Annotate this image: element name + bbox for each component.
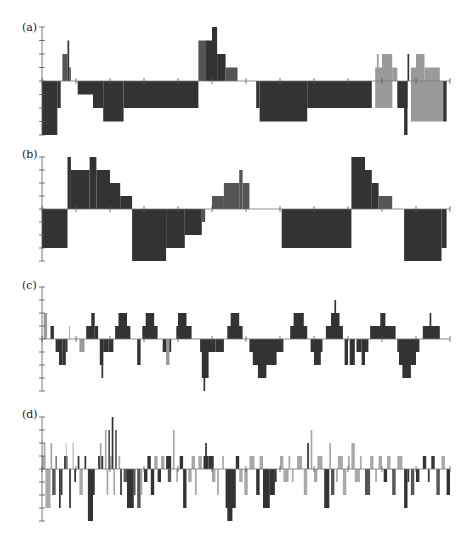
bar-segment [78, 81, 93, 95]
bar-segment [91, 313, 94, 339]
bar-segment [105, 430, 107, 469]
bar-segment [304, 469, 307, 495]
bar-segment [198, 456, 201, 469]
bar-segment [411, 469, 414, 495]
bar-segment [154, 456, 157, 469]
bar-segment [90, 157, 97, 209]
bar-segment [280, 456, 283, 469]
bar-segment [375, 81, 392, 108]
bar-segment [425, 68, 440, 82]
bar-segment [217, 469, 219, 495]
bar-segment [113, 469, 115, 495]
bar-segment [124, 469, 127, 482]
bar-segment [85, 456, 87, 469]
bar-segment [215, 339, 224, 352]
panel-c: (c) [22, 279, 450, 391]
bar-segment [103, 339, 108, 352]
bar-segment [282, 209, 352, 248]
bar-segment [166, 456, 171, 469]
bar-segment [51, 326, 54, 339]
bar-segment [209, 456, 214, 469]
bar-segment [307, 81, 372, 108]
bar-segment [137, 469, 140, 508]
bar-segment [408, 469, 410, 482]
bar-segment [239, 469, 242, 482]
bar-segment [134, 469, 136, 495]
bar-segment [42, 209, 68, 248]
bar-segment [79, 469, 82, 495]
bar-segment [120, 196, 132, 209]
bar-segment [334, 300, 336, 339]
bar-segment [329, 443, 331, 469]
bar-segment [256, 469, 259, 495]
bar-segment [392, 68, 397, 82]
bar-segment [144, 469, 147, 482]
bar-segment [68, 157, 71, 209]
bar-segment [416, 54, 425, 81]
bar-segment [357, 339, 362, 352]
bar-segment [226, 68, 238, 82]
bar-segment [212, 196, 224, 209]
bar-segment [108, 430, 110, 469]
bar-segment [59, 339, 62, 365]
bar-segment [158, 469, 161, 482]
bar-segment [146, 313, 155, 339]
bar-segment [365, 469, 370, 495]
bar-segment [314, 469, 317, 482]
bar-segment [372, 183, 379, 209]
bar-segment [365, 170, 372, 209]
panel-d: (d) [22, 408, 450, 521]
bar-segment [423, 456, 426, 469]
bar-segment [62, 54, 67, 81]
bar-segment [404, 469, 407, 508]
bar-segment [68, 41, 70, 82]
bar-segment [380, 313, 385, 339]
bar-segment [96, 170, 110, 209]
bar-segment [178, 313, 187, 339]
bar-segment [430, 313, 432, 339]
bar-segment [222, 456, 224, 469]
bar-segment [204, 339, 206, 391]
bar-segment [66, 339, 68, 352]
bar-segment [260, 456, 263, 469]
bar-segment [379, 456, 382, 469]
bar-segment [331, 469, 334, 495]
bar-segment [362, 339, 365, 365]
bar-segment [205, 443, 207, 469]
bar-segment [227, 469, 232, 521]
bar-segment [317, 456, 322, 469]
bar-segment [120, 469, 122, 495]
bar-segment [343, 469, 346, 495]
bar-segment [88, 469, 93, 521]
bar-segment [61, 469, 63, 495]
bar-segment [224, 183, 239, 209]
panel-a: (a) [22, 21, 450, 135]
bar-segment [195, 469, 197, 495]
bar-segment [56, 339, 59, 352]
bar-segment [402, 339, 411, 378]
bar-segment [387, 456, 390, 469]
bar-segment [137, 339, 140, 365]
bar-segment [275, 469, 277, 482]
bar-segment [236, 456, 239, 469]
bar-segment [351, 443, 354, 469]
bar-segment [147, 456, 150, 469]
bar-segment [289, 456, 291, 469]
bar-segment [392, 469, 395, 495]
bar-segment [428, 469, 430, 482]
bar-segment [256, 81, 259, 108]
bar-segment [447, 469, 450, 495]
bar-segment [249, 456, 254, 469]
bar-segment [244, 469, 247, 495]
bar-segment [212, 27, 217, 81]
bar-segment [66, 443, 67, 469]
panel-b: (b) [22, 148, 450, 261]
bar-segment [100, 443, 102, 469]
bar-segment [132, 209, 166, 261]
bar-segment [411, 81, 443, 122]
bar-segment [93, 469, 95, 495]
bar-segment [350, 339, 355, 365]
bar-segment [124, 81, 199, 108]
bar-segment [166, 209, 185, 248]
bar-segment [294, 313, 304, 339]
